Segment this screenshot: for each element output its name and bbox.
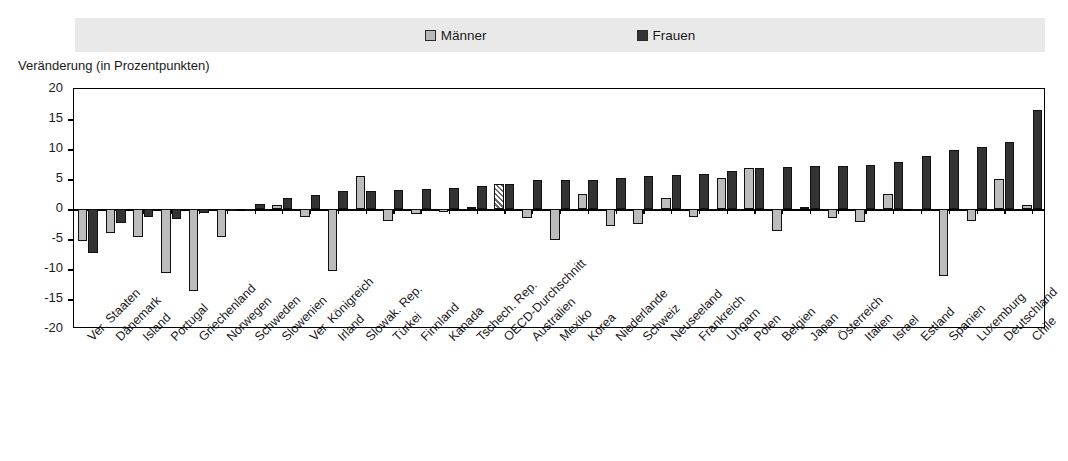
x-axis-labels: Ver. StaatenDänemarkIslandPortugalGriech… [0, 0, 1068, 461]
x-axis-label: Israel [890, 312, 922, 344]
